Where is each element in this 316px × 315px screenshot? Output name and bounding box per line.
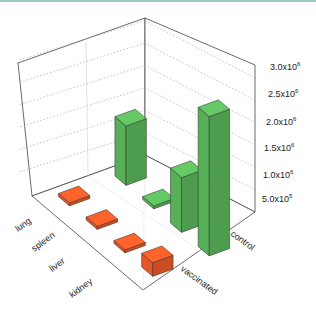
z-tick-label: 5.0x105 (262, 193, 293, 204)
x-label-liver: liver (47, 256, 66, 274)
x-label-lung: lung (13, 216, 33, 234)
x-label-kidney: kidney (67, 276, 94, 300)
bar-control-lung (115, 109, 146, 185)
bar-chart-3d: lungspleenliverkidneyvaccinatedcontrol5.… (0, 0, 316, 315)
z-tick-label: 2.5x106 (268, 88, 299, 99)
y-label-vaccinated: vaccinated (179, 264, 220, 297)
y-label-control: control (229, 229, 257, 253)
bar-control-liver (170, 161, 201, 233)
z-tick-label: 1.5x106 (264, 142, 295, 153)
z-tick-label: 2.0x106 (266, 116, 297, 127)
z-tick-label: 1.0x106 (263, 169, 294, 180)
bar-control-kidney (198, 100, 229, 256)
x-label-spleen: spleen (29, 230, 56, 254)
z-tick-label: 3.0x106 (270, 61, 301, 72)
